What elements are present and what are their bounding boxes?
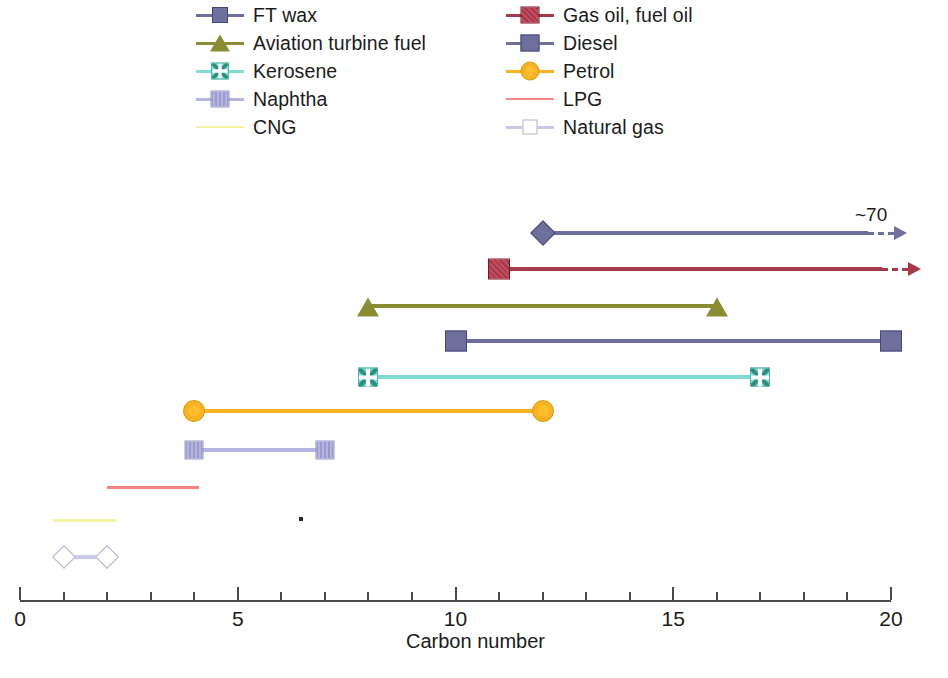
axis-tick-label: 15 <box>662 607 685 631</box>
axis-tick-minor <box>411 592 413 600</box>
axis-tick-minor <box>716 592 718 600</box>
axis-tick-label: 20 <box>879 607 902 631</box>
axis-tick-major <box>890 587 892 600</box>
axis-tick-minor <box>585 592 587 600</box>
axis-tick-label: 10 <box>444 607 467 631</box>
axis-tick-minor <box>629 592 631 600</box>
axis-tick-minor <box>193 592 195 600</box>
axis-tick-minor <box>106 592 108 600</box>
axis-line <box>20 600 891 602</box>
axis-tick-minor <box>498 592 500 600</box>
x-axis-label: Carbon number <box>406 630 545 653</box>
axis-tick-minor <box>150 592 152 600</box>
axis-tick-label: 5 <box>232 607 244 631</box>
axis-tick-major <box>237 587 239 600</box>
axis-tick-major <box>672 587 674 600</box>
axis-tick-major <box>19 587 21 600</box>
axis-tick-minor <box>367 592 369 600</box>
axis-tick-minor <box>63 592 65 600</box>
axis-tick-minor <box>280 592 282 600</box>
axis-tick-label: 0 <box>14 607 26 631</box>
chart-canvas: FT waxAviation turbine fuelKeroseneNapht… <box>0 0 948 678</box>
x-axis: Carbon number 05101520 <box>0 0 948 678</box>
axis-tick-minor <box>324 592 326 600</box>
axis-tick-major <box>455 587 457 600</box>
axis-tick-minor <box>759 592 761 600</box>
axis-tick-minor <box>846 592 848 600</box>
axis-tick-minor <box>542 592 544 600</box>
axis-tick-minor <box>803 592 805 600</box>
